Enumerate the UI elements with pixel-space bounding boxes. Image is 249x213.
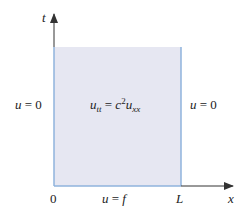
initial-condition: u = f bbox=[102, 191, 128, 206]
wave-equation-diagram: t x 0 L u = 0 u = 0 utt = c2uxx u = f bbox=[0, 0, 249, 213]
equals-sign: = bbox=[109, 191, 123, 206]
right-boundary-condition: u = 0 bbox=[190, 97, 217, 112]
origin-label: 0 bbox=[50, 191, 57, 206]
equals-zero: = 0 bbox=[22, 97, 42, 112]
f-symbol: f bbox=[122, 191, 128, 206]
solution-domain bbox=[54, 47, 181, 186]
length-label: L bbox=[175, 191, 183, 206]
t-axis-label: t bbox=[42, 10, 46, 25]
equals-sign: = bbox=[102, 97, 116, 112]
equals-zero: = 0 bbox=[197, 97, 217, 112]
x-axis-label: x bbox=[227, 191, 234, 206]
left-boundary-condition: u = 0 bbox=[15, 97, 42, 112]
xx-subscript: xx bbox=[131, 104, 140, 114]
